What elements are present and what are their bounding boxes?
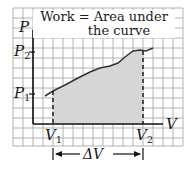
v1-label: V1 [45,128,62,145]
p1-label: P1 [14,86,30,103]
v2-label: V2 [136,128,153,145]
y-axis-label: P [19,20,29,35]
p2-label: P2 [14,44,30,61]
title-line-2: the curve [33,24,175,38]
title-box: Work = Area under the curve [33,10,175,38]
work-area [53,50,143,124]
title-line-1: Work = Area under [33,10,175,24]
x-axis-label: V [166,117,177,132]
delta-v-label: ΔV [83,147,103,161]
